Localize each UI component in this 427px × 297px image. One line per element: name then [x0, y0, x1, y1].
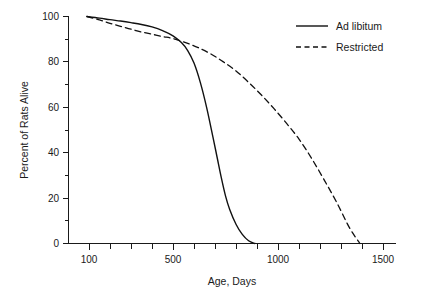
series-line-ad-libitum	[87, 17, 255, 244]
y-axis-title: Percent of Rats Alive	[18, 81, 30, 179]
legend-label-restricted: Restricted	[336, 41, 383, 53]
y-tick-label-60: 60	[48, 102, 60, 113]
x-axis-title: Age, Days	[208, 275, 256, 287]
chart-canvas: 0 20 40 60 80 100 100 500	[0, 0, 427, 297]
y-tick-label-100: 100	[42, 11, 59, 22]
x-axis-minor-ticks	[110, 244, 362, 249]
x-tick-label-500: 500	[165, 254, 182, 265]
legend: Ad libitum Restricted	[296, 20, 383, 53]
x-tick-label-1000: 1000	[267, 254, 290, 265]
y-tick-label-80: 80	[48, 56, 60, 67]
y-tick-label-0: 0	[53, 238, 59, 249]
x-tick-label-100: 100	[81, 254, 98, 265]
y-tick-label-20: 20	[48, 193, 60, 204]
x-tick-label-1500: 1500	[372, 254, 395, 265]
survival-curve-figure: 0 20 40 60 80 100 100 500	[0, 0, 427, 297]
series-line-restricted	[87, 17, 360, 244]
y-tick-label-40: 40	[48, 147, 60, 158]
legend-label-ad-libitum: Ad libitum	[336, 20, 382, 32]
